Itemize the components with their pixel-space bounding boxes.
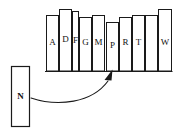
bar-label: M bbox=[94, 37, 102, 47]
bar-item-w[interactable]: W bbox=[159, 10, 172, 72]
bar-item-blank[interactable] bbox=[146, 16, 158, 72]
bar-item-g[interactable]: G bbox=[80, 18, 92, 72]
bar-label: A bbox=[49, 37, 56, 47]
bar-item-t[interactable]: T bbox=[133, 16, 145, 72]
bar-label: D bbox=[62, 34, 69, 44]
bar-label: T bbox=[136, 37, 142, 47]
bar-item-f[interactable]: F bbox=[73, 12, 79, 72]
bar-rect[interactable] bbox=[146, 16, 158, 72]
insertion-arrow bbox=[31, 70, 113, 103]
bar-label: F bbox=[73, 35, 78, 45]
bar-label: R bbox=[122, 37, 128, 47]
bar-item-m[interactable]: M bbox=[93, 16, 105, 72]
bar-item-r[interactable]: R bbox=[120, 18, 132, 72]
insert-box[interactable]: N bbox=[12, 67, 30, 127]
bar-item-d[interactable]: D bbox=[60, 10, 72, 72]
bar-label: G bbox=[82, 37, 89, 47]
bar-label: P bbox=[110, 40, 115, 50]
bar-item-a[interactable]: A bbox=[47, 16, 59, 72]
insert-box-label: N bbox=[17, 91, 24, 101]
bar-group: A D F G M P R T bbox=[45, 10, 173, 72]
diagram-canvas: A D F G M P R T bbox=[0, 0, 179, 135]
bar-item-p[interactable]: P bbox=[107, 23, 119, 72]
insertion-arrow-path bbox=[31, 81, 108, 102]
bar-label: W bbox=[161, 37, 170, 47]
